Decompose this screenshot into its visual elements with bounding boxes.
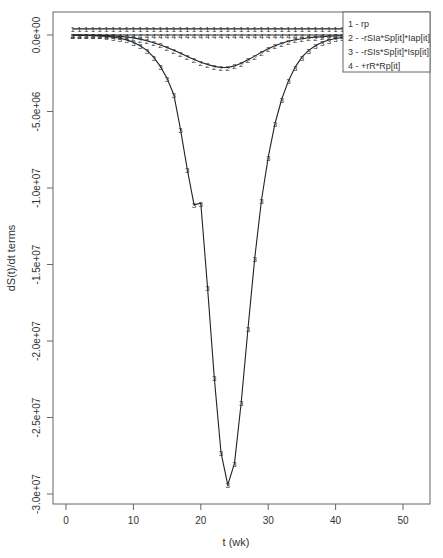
series-marker-4: 4 [259,32,264,41]
series-marker-3: 3 [239,399,244,408]
series-marker-4: 4 [131,32,136,41]
series-marker-2: 2 [192,56,197,65]
series-marker-3: 3 [185,166,190,175]
series-marker-4: 4 [158,32,163,41]
series-marker-4: 4 [252,32,257,41]
series-marker-3: 3 [219,449,224,458]
plot-frame [53,12,430,504]
series-marker-4: 4 [199,32,204,41]
series-marker-4: 4 [138,32,143,41]
series-marker-4: 4 [219,32,224,41]
series-marker-4: 4 [84,32,89,41]
series-marker-2: 2 [246,56,251,65]
series-marker-3: 3 [212,374,217,383]
series-marker-4: 4 [300,32,305,41]
series-marker-4: 4 [145,32,150,41]
series-marker-4: 4 [266,32,271,41]
series-marker-3: 3 [178,126,183,135]
series-marker-3: 3 [205,284,210,293]
series-marker-4: 4 [118,32,123,41]
y-axis-label: dS(t)/dt terms [5,224,17,291]
legend-item-3: 3 - -rSIs*Sp[it]*Isp[it] [348,47,429,57]
series-marker-2: 2 [266,45,271,54]
series-marker-3: 3 [192,201,197,210]
series-marker-2: 2 [178,50,183,59]
series-marker-4: 4 [327,32,332,41]
series-marker-3: 3 [165,75,170,84]
x-tick-label: 50 [397,515,409,526]
series-marker-4: 4 [273,32,278,41]
series-marker-3: 3 [306,47,311,56]
series-marker-2: 2 [205,61,210,70]
series-marker-4: 4 [226,32,231,41]
y-tick-label: -2.5e+07 [31,397,42,437]
series-marker-2: 2 [212,63,217,72]
series-marker-3: 3 [172,91,177,100]
series-marker-2: 2 [219,64,224,73]
y-tick-label: -5.0e+06 [31,91,42,131]
chart: 01020304050 0.0e+00-5.0e+06-1.0e+07-1.5e… [0,0,443,558]
y-tick-label: -1.5e+07 [31,244,42,284]
series-marker-3: 3 [300,54,305,63]
series-marker-3: 3 [158,63,163,72]
series-marker-3: 3 [313,42,318,51]
series-marker-4: 4 [111,32,116,41]
y-axis: 0.0e+00-5.0e+06-1.0e+07-1.5e+07-2.0e+07-… [31,16,53,514]
series-marker-4: 4 [293,32,298,41]
series-marker-4: 4 [279,32,284,41]
series-marker-3: 3 [273,120,278,129]
series-marker-4: 4 [313,32,318,41]
series-marker-2: 2 [232,62,237,71]
series-marker-4: 4 [306,32,311,41]
series-marker-4: 4 [77,32,82,41]
x-axis: 01020304050 [63,504,409,526]
series-marker-4: 4 [333,32,338,41]
y-tick-label: -1.0e+07 [31,168,42,208]
series-marker-2: 2 [165,44,170,53]
series-marker-4: 4 [104,32,109,41]
series-marker-4: 4 [124,32,129,41]
series-marker-3: 3 [266,154,271,163]
series-marker-3: 3 [151,54,156,63]
legend-item-1: 1 - rp [348,19,369,29]
series-marker-3: 3 [199,200,204,209]
series-marker-3: 3 [138,42,143,51]
x-tick-label: 30 [263,515,275,526]
series-marker-2: 2 [151,39,156,48]
series-marker-4: 4 [185,32,190,41]
series-marker-4: 4 [172,32,177,41]
x-tick-label: 0 [63,515,69,526]
series-marker-3: 3 [145,47,150,56]
series-line-3 [73,35,343,485]
series-marker-4: 4 [232,32,237,41]
series-marker-3: 3 [252,255,257,264]
series-marker-4: 4 [97,32,102,41]
series-marker-4: 4 [212,32,217,41]
series-marker-4: 4 [246,32,251,41]
series-marker-2: 2 [279,40,284,49]
x-axis-label: t (wk) [223,536,250,548]
series-marker-3: 3 [259,197,264,206]
series-marker-4: 4 [320,32,325,41]
series-marker-3: 3 [286,77,291,86]
legend: 1 - rp 2 - -rSIa*Sp[it]*Iap[it] 3 - -rSI… [343,12,430,72]
series-marker-4: 4 [91,32,96,41]
legend-item-2: 2 - -rSIa*Sp[it]*Iap[it] [348,33,430,43]
legend-item-4: 4 - +rR*Rp[it] [348,61,400,71]
series-marker-4: 4 [286,32,291,41]
series-marker-4: 4 [151,32,156,41]
series-marker-2: 2 [239,60,244,69]
series-marker-3: 3 [232,460,237,469]
series-marker-4: 4 [71,32,76,41]
series-marker-2: 2 [172,47,177,56]
series-marker-2: 2 [273,42,278,51]
x-tick-label: 20 [195,515,207,526]
x-tick-label: 40 [330,515,342,526]
series-marker-2: 2 [158,41,163,50]
series-marker-3: 3 [293,64,298,73]
y-tick-label: 0.0e+00 [31,16,42,53]
series-marker-2: 2 [259,49,264,58]
series-marker-3: 3 [226,481,231,490]
series-marker-2: 2 [185,53,190,62]
series-marker-2: 2 [226,64,231,73]
